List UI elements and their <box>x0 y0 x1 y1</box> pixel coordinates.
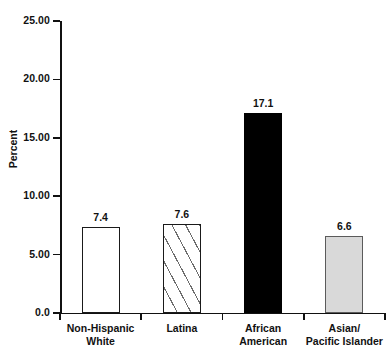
y-tick-label: 20.00 <box>4 72 50 84</box>
y-tick-label: 15.00 <box>4 131 50 143</box>
y-tick-label: 0.0 <box>4 306 50 318</box>
bar-chart: Percent 0.05.0010.0015.0020.0025.00 7.47… <box>0 0 391 362</box>
bar <box>325 236 363 313</box>
bar <box>163 224 201 313</box>
y-axis-title: Percent <box>7 119 19 179</box>
bar <box>244 113 282 313</box>
category-label-line: Latina <box>135 322 228 335</box>
category-label-line: Non-Hispanic <box>54 322 147 335</box>
y-tick-label: 25.00 <box>4 14 50 26</box>
bar-hatch-pattern <box>164 225 200 312</box>
category-label: Non-HispanicWhite <box>54 322 147 347</box>
category-label-line: White <box>54 335 147 348</box>
x-tick-mark <box>140 313 142 320</box>
x-tick-mark <box>384 313 386 320</box>
category-label-line: Asian/ <box>298 322 391 335</box>
bar <box>82 227 120 313</box>
y-tick-label: 10.00 <box>4 189 50 201</box>
y-tick-label: 5.00 <box>4 248 50 260</box>
category-label-line: American <box>217 335 310 348</box>
bar-value-label: 7.6 <box>152 208 212 220</box>
y-tick-mark <box>53 254 60 256</box>
y-tick-mark <box>53 79 60 81</box>
x-tick-mark <box>303 313 305 320</box>
y-tick-mark <box>53 195 60 197</box>
category-label-line: African <box>217 322 310 335</box>
x-tick-mark <box>59 313 61 320</box>
category-label: Latina <box>135 322 228 335</box>
category-label: AfricanAmerican <box>217 322 310 347</box>
bar-value-label: 6.6 <box>314 220 374 232</box>
plot-area: 7.47.617.16.6 <box>60 21 385 313</box>
y-tick-mark <box>53 137 60 139</box>
category-label: Asian/Pacific Islander <box>298 322 391 347</box>
y-tick-mark <box>53 20 60 22</box>
category-label-line: Pacific Islander <box>298 335 391 348</box>
bar-value-label: 7.4 <box>71 211 131 223</box>
x-tick-mark <box>222 313 224 320</box>
bar-value-label: 17.1 <box>233 97 293 109</box>
